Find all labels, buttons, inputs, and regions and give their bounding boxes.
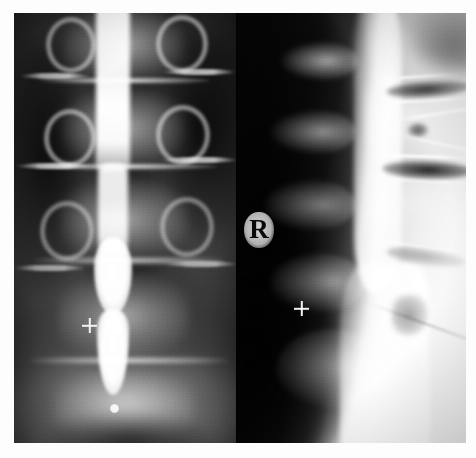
lateral-spinous-process-1: [280, 41, 358, 81]
ap-pedicle-right-1: [156, 15, 208, 73]
cross-marker-lateral: [294, 301, 309, 316]
ap-pedicle-right-2: [156, 105, 210, 165]
laterality-marker-right: R: [244, 212, 274, 248]
ap-transverse-process-3: [16, 163, 92, 169]
lateral-vertebral-body-1: [366, 13, 466, 71]
contrast-droplet: [110, 404, 119, 413]
cross-marker-ap: [82, 318, 97, 333]
lateral-anterior-cortex-lower: [340, 263, 430, 443]
ap-endplate-4: [30, 357, 228, 364]
lateral-posterior-notch: [408, 123, 428, 137]
lateral-view-panel: R: [236, 13, 466, 443]
ap-vertebral-body-5: [54, 369, 194, 443]
lateral-spinous-process-3: [264, 179, 356, 231]
ap-transverse-process-1: [20, 73, 90, 79]
ap-transverse-process-4: [160, 157, 236, 163]
ap-pedicle-left-1: [46, 17, 96, 73]
ap-pedicle-right-3: [160, 197, 214, 257]
ap-transverse-process-6: [164, 261, 236, 267]
ap-transverse-process-2: [162, 69, 236, 75]
radiograph-page: R: [0, 0, 476, 458]
ap-pedicle-left-3: [40, 201, 94, 261]
laterality-marker-label: R: [249, 216, 269, 243]
ap-transverse-process-5: [14, 265, 86, 271]
film-plate: R: [14, 13, 466, 443]
lateral-spinous-process-2: [270, 109, 356, 155]
contrast-column-upper: [96, 13, 130, 173]
ap-view-panel: [14, 13, 236, 443]
ap-pedicle-left-2: [44, 109, 96, 167]
